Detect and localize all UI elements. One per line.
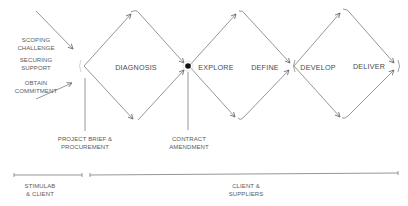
- input-label-scoping: SCOPING CHALLENGE: [17, 36, 54, 52]
- timeline-line: SUPPLIERS: [229, 190, 264, 198]
- milestone-label-brief: PROJECT BRIEF & PROCUREMENT: [58, 135, 112, 151]
- input-line: COMMITMENT: [15, 87, 57, 95]
- input-line: SUPPORT: [20, 64, 52, 72]
- timeline-label-client: CLIENT & SUPPLIERS: [229, 182, 264, 198]
- milestone-line: AMENDMENT: [169, 143, 209, 151]
- milestone-label-contract: CONTRACT AMENDMENT: [169, 135, 209, 151]
- input-line: CHALLENGE: [17, 44, 54, 52]
- milestone-line: CONTRACT: [169, 135, 209, 143]
- input-line: SECURING: [20, 56, 52, 64]
- timeline-client: [90, 173, 398, 175]
- input-label-securing: SECURING SUPPORT: [20, 56, 52, 72]
- junction-dot: [185, 63, 191, 69]
- input-line: SCOPING: [17, 36, 54, 44]
- timeline-line: & CLIENT: [25, 190, 56, 198]
- phase-deliver: DELIVER: [353, 62, 385, 71]
- input-line: OBTAIN: [15, 79, 57, 87]
- milestone-line: PROJECT BRIEF &: [58, 135, 112, 143]
- start-bracket: [80, 60, 82, 72]
- phase-explore: EXPLORE: [198, 63, 233, 72]
- double-diamond-diagram: [0, 0, 408, 206]
- phase-develop: DEVELOP: [300, 63, 335, 72]
- end-bracket: [398, 60, 400, 72]
- input-label-obtain: OBTAIN COMMITMENT: [15, 79, 57, 95]
- timeline-line: CLIENT &: [229, 182, 264, 190]
- timeline-label-stimulab: STIMULAB & CLIENT: [25, 182, 56, 198]
- phase-define: DEFINE: [251, 63, 279, 72]
- timeline-line: STIMULAB: [25, 182, 56, 190]
- phase-diagnosis: DIAGNOSIS: [115, 63, 157, 72]
- milestone-line: PROCUREMENT: [58, 143, 112, 151]
